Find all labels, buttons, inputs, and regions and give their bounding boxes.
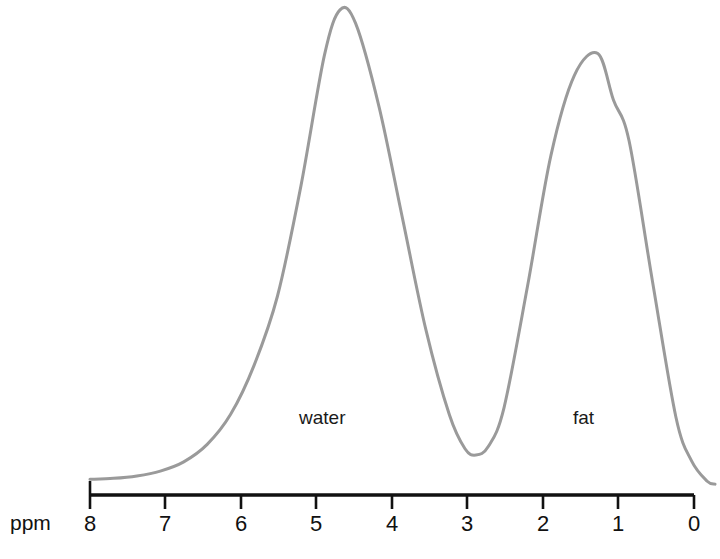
axis-tick-label: 6 [226, 511, 256, 537]
spectrum-curve [90, 7, 715, 484]
axis-tick-label: 7 [150, 511, 180, 537]
axis-tick-label: 3 [452, 511, 482, 537]
axis-tick-label: 5 [301, 511, 331, 537]
peak-label-fat: fat [573, 407, 594, 429]
spectrum-figure: water fat ppm 8 7 6 5 4 3 2 1 0 [0, 0, 720, 559]
axis-tick-label: 8 [75, 511, 105, 537]
peak-label-water: water [299, 407, 345, 429]
spectrum-plot-svg [0, 0, 720, 559]
axis-tick-label: 1 [603, 511, 633, 537]
axis-unit-label: ppm [10, 511, 51, 535]
ppm-axis-ticks [90, 495, 694, 509]
axis-tick-label: 0 [679, 511, 709, 537]
axis-tick-label: 4 [377, 511, 407, 537]
axis-tick-label: 2 [528, 511, 558, 537]
